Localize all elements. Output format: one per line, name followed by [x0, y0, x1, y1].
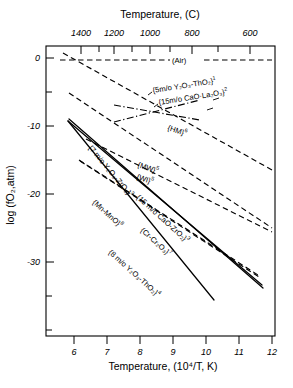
label-hm-group: {HM}6: [166, 122, 188, 138]
x-tick-label-9: 9: [170, 347, 175, 357]
chart-svg: Temperature, (C) 1400 1200 1000 800 600 …: [0, 0, 293, 388]
x-tick-label-7: 7: [104, 347, 110, 357]
svg-text:{HM}6: {HM}6: [166, 122, 188, 138]
y-ticks: 0 -10 -20 -30: [27, 53, 54, 330]
x-tick-label-6: 6: [71, 347, 76, 357]
top-tick-labels: 1400 1200 1000 800 600: [71, 28, 258, 38]
label-air-group: (Air): [170, 54, 204, 66]
curve-y2o3-tho2-5: [114, 105, 200, 120]
label-y2o3-tho2-5-sup: 1: [212, 74, 216, 80]
y-tick-label-minus10: -10: [27, 121, 40, 131]
label-cao-la2o3-15-sup: 2: [224, 86, 228, 92]
x-tick-label-10: 10: [201, 347, 211, 357]
label-mn-mno: {Mn-MnO}: [91, 198, 123, 228]
top-axis-title: Temperature, (C): [120, 8, 199, 20]
y-tick-label-minus30: -30: [27, 257, 40, 267]
x-tick-label-8: 8: [137, 347, 142, 357]
label-mw-sup: 5: [155, 165, 160, 172]
bottom-ticks: [74, 336, 272, 344]
top-ticks: [81, 46, 250, 54]
label-y2o3-tho2-8: {8 m/o Y₂O₃-ThO₂}: [107, 248, 160, 297]
label-wi-sup: 5: [150, 175, 155, 182]
top-tick-label-800: 800: [184, 28, 199, 38]
y-axis-title: log (fO₂,atm): [4, 165, 16, 225]
top-tick-label-1000: 1000: [140, 28, 160, 38]
figure-container: Temperature, (C) 1400 1200 1000 800 600 …: [0, 0, 293, 388]
bottom-axis-title: Temperature, (10⁴/T, K): [109, 360, 218, 372]
top-tick-label-1400: 1400: [71, 28, 91, 38]
label-wi: {WI}: [135, 172, 152, 185]
svg-text:{8 m/o Y₂O₃-ThO₂}4: {8 m/o Y₂O₃-ThO₂}4: [107, 247, 163, 299]
top-tick-label-600: 600: [242, 28, 257, 38]
label-hm-sup: 6: [184, 127, 189, 134]
x-tick-label-12: 12: [267, 347, 277, 357]
y-tick-label-minus20: -20: [27, 189, 40, 199]
bottom-tick-labels: 6 7 8 9 10 11 12: [71, 347, 277, 357]
curve-cao-la2o3-15: [114, 100, 200, 122]
y-tick-label-0: 0: [35, 53, 40, 63]
label-mn-mno-group: {Mn-MnO}8: [91, 197, 126, 230]
svg-text:{Mn-MnO}8: {Mn-MnO}8: [91, 197, 126, 230]
top-tick-label-1200: 1200: [104, 28, 124, 38]
label-hm: {HM}: [166, 123, 185, 137]
label-air: (Air): [172, 56, 187, 65]
x-tick-label-11: 11: [234, 347, 243, 357]
label-y2o3-tho2-8-group: {8 m/o Y₂O₃-ThO₂}4: [107, 247, 163, 299]
